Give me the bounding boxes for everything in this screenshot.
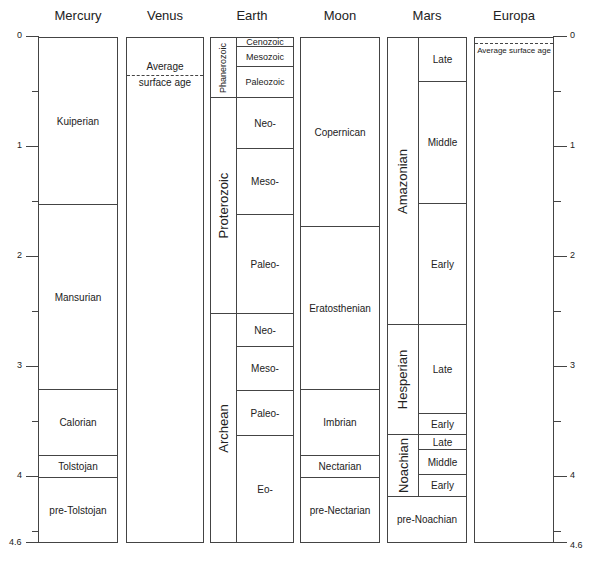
era-paleoproterozoic: Paleo- [237, 214, 293, 313]
right-tick-4.6: 4.6 [570, 540, 583, 550]
era-mesoarchean: Meso- [237, 346, 293, 390]
europa-average-surface-age-label: Average surface age [475, 45, 553, 57]
title-moon: Moon [300, 8, 380, 23]
column-europa: Average surface age [474, 37, 554, 543]
right-tick-2: 2 [570, 250, 575, 260]
unit-pre-noachian: pre-Noachian [388, 496, 466, 542]
left-tick-3: 3 [17, 360, 22, 370]
unit-pre-nectarian: pre-Nectarian [301, 477, 379, 542]
unit-tolstojan: Tolstojan [39, 455, 117, 477]
left-tick-4: 4 [17, 470, 22, 480]
era-eoarchean: Eo- [237, 435, 293, 542]
unit-calorian: Calorian [39, 389, 117, 455]
era-paleoarchean: Paleo- [237, 390, 293, 435]
europa-average-surface-age-line [475, 43, 553, 44]
epoch-early-hesperian: Early [419, 413, 466, 434]
column-earth: Phanerozoic Proterozoic Archean Cenozoic… [210, 37, 294, 543]
left-tick-0: 0 [17, 30, 22, 40]
eon-phanerozoic: Phanerozoic [211, 38, 236, 97]
epoch-late-noachian: Late [419, 434, 466, 449]
period-noachian: Noachian [388, 434, 418, 496]
unit-copernican: Copernican [301, 38, 379, 226]
eon-proterozoic: Proterozoic [211, 97, 236, 313]
title-mars: Mars [387, 8, 467, 23]
right-tick-4: 4 [570, 470, 575, 480]
venus-average-label: Average [127, 61, 203, 73]
column-mercury: Kuiperian Mansurian Calorian Tolstojan p… [38, 37, 118, 543]
unit-mansurian: Mansurian [39, 204, 117, 389]
title-earth: Earth [210, 8, 294, 23]
epoch-late-hesperian: Late [419, 324, 466, 413]
unit-kuiperian: Kuiperian [39, 38, 117, 204]
era-mesozoic: Mesozoic [237, 46, 293, 66]
column-venus: Average surface age [126, 37, 204, 543]
unit-eratosthenian: Eratosthenian [301, 226, 379, 389]
unit-nectarian: Nectarian [301, 455, 379, 477]
venus-surface-age-label: surface age [127, 77, 203, 89]
unit-imbrian: Imbrian [301, 389, 379, 455]
era-mesoproterozoic: Meso- [237, 148, 293, 214]
column-mars: Amazonian Hesperian Noachian Late Middle… [387, 37, 467, 543]
title-europa: Europa [474, 8, 554, 23]
left-tick-4.6: 4.6 [9, 537, 22, 547]
left-tick-2: 2 [17, 250, 22, 260]
era-neoproterozoic: Neo- [237, 97, 293, 148]
era-neoarchean: Neo- [237, 313, 293, 346]
epoch-middle-amazonian: Middle [419, 81, 466, 203]
epoch-late-amazonian: Late [419, 38, 466, 81]
epoch-middle-noachian: Middle [419, 449, 466, 474]
venus-average-surface-age-line [127, 75, 203, 76]
left-tick-1: 1 [17, 140, 22, 150]
right-tick-0: 0 [570, 30, 575, 40]
title-mercury: Mercury [38, 8, 118, 23]
period-hesperian: Hesperian [388, 324, 418, 434]
era-paleozoic: Paleozoic [237, 66, 293, 97]
epoch-early-amazonian: Early [419, 203, 466, 324]
eon-archean: Archean [211, 313, 236, 542]
title-venus: Venus [126, 8, 204, 23]
period-amazonian: Amazonian [388, 38, 418, 324]
unit-pre-tolstojan: pre-Tolstojan [39, 477, 117, 542]
column-moon: Copernican Eratosthenian Imbrian Nectari… [300, 37, 380, 543]
right-tick-1: 1 [570, 140, 575, 150]
epoch-early-noachian: Early [419, 474, 466, 496]
right-tick-3: 3 [570, 360, 575, 370]
era-cenozoic: Cenozoic [237, 38, 293, 46]
